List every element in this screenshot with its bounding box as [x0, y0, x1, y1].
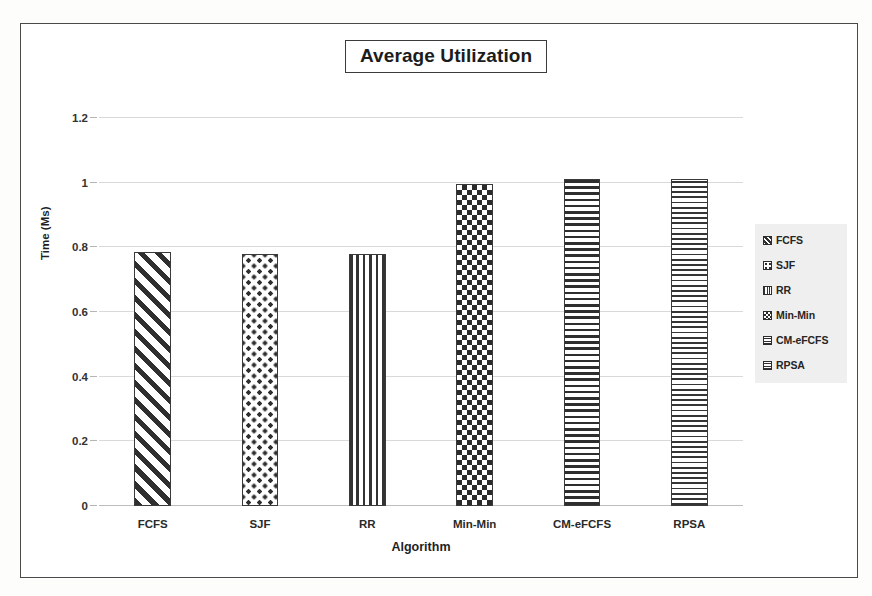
y-tick-label: 1 [82, 177, 88, 189]
bar-fcfs[interactable] [134, 252, 170, 506]
y-tick-label: 0.4 [72, 371, 88, 383]
x-tick-label: Min-Min [453, 518, 496, 530]
y-tick-mark [90, 182, 97, 183]
bar-slot [421, 118, 528, 506]
legend-label: RR [776, 284, 791, 296]
legend-swatch-icon [763, 336, 772, 345]
legend-swatch-icon [763, 236, 772, 245]
bar-cm-efcfs[interactable] [564, 179, 600, 506]
legend-label: Min-Min [776, 309, 815, 321]
y-axis-title: Time (Ms) [39, 207, 51, 260]
y-tick-mark [90, 376, 97, 377]
chart-title-box: Average Utilization [345, 40, 547, 73]
x-tick-label: RPSA [673, 518, 705, 530]
bar-sjf[interactable] [242, 254, 278, 506]
x-tick-label: CM-eFCFS [553, 518, 611, 530]
page-title: Average Utilization [360, 45, 532, 66]
bar-slot [528, 118, 635, 506]
legend-label: RPSA [776, 359, 805, 371]
legend-label: SJF [776, 259, 795, 271]
chart-legend: FCFSSJFRRMin-MinCM-eFCFSRPSA [755, 224, 847, 383]
y-tick-label: 0 [82, 500, 88, 512]
legend-swatch-icon [763, 286, 772, 295]
bar-rr[interactable] [349, 254, 385, 506]
y-tick-label: 1.2 [72, 112, 88, 124]
bar-slot [99, 118, 206, 506]
bar-slot [314, 118, 421, 506]
y-tick-mark [90, 117, 97, 118]
y-tick-mark [90, 440, 97, 441]
bar-slot [206, 118, 313, 506]
legend-label: FCFS [776, 234, 803, 246]
legend-swatch-icon [763, 261, 772, 270]
x-tick-label: SJF [249, 518, 270, 530]
chart-frame: Average Utilization Time (Ms) 00.20.40.6… [20, 23, 858, 578]
legend-item-sjf[interactable]: SJF [763, 259, 843, 271]
legend-item-min-min[interactable]: Min-Min [763, 309, 843, 321]
y-tick-label: 0.2 [72, 435, 88, 447]
scanned-page: Average Utilization Time (Ms) 00.20.40.6… [0, 0, 872, 596]
y-tick-label: 0.8 [72, 241, 88, 253]
y-tick-mark [90, 311, 97, 312]
legend-label: CM-eFCFS [776, 334, 828, 346]
bar-rpsa[interactable] [671, 179, 707, 506]
y-tick-mark [90, 246, 97, 247]
y-tick-label: 0.6 [72, 306, 88, 318]
x-tick-label: RR [359, 518, 376, 530]
y-tick-mark [90, 505, 97, 506]
x-tick-label: FCFS [138, 518, 168, 530]
legend-item-cm-efcfs[interactable]: CM-eFCFS [763, 334, 843, 346]
plot-area: 00.20.40.60.811.2 FCFSSJFRRMin-MinCM-eFC… [99, 118, 743, 506]
legend-item-rr[interactable]: RR [763, 284, 843, 296]
legend-item-rpsa[interactable]: RPSA [763, 359, 843, 371]
bar-min-min[interactable] [456, 184, 492, 506]
bar-slot [636, 118, 743, 506]
legend-swatch-icon [763, 311, 772, 320]
legend-swatch-icon [763, 361, 772, 370]
x-axis-title: Algorithm [99, 540, 743, 554]
bar-series [99, 118, 743, 506]
legend-item-fcfs[interactable]: FCFS [763, 234, 843, 246]
